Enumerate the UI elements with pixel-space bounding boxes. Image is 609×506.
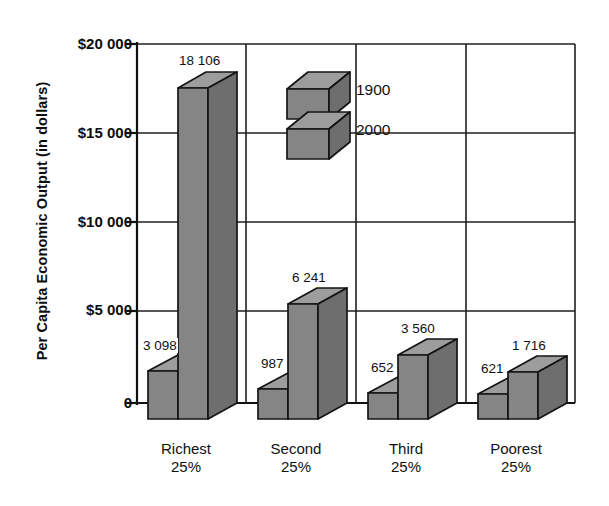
value-label-poorest-2000: 1 716 — [511, 338, 547, 353]
value-label-second-1900: 987 — [260, 356, 285, 371]
value-label-third-2000: 3 560 — [400, 321, 436, 336]
value-label-richest-1900: 3 098 — [142, 338, 178, 353]
legend-label-1900: 1900 — [356, 81, 390, 99]
value-label-poorest-1900: 621 — [480, 361, 505, 376]
x-tick-poorest-name: Poorest — [461, 440, 571, 458]
plot-area — [0, 0, 609, 506]
x-tick-label-third: Third 25% — [351, 440, 461, 475]
x-tick-second-pct: 25% — [241, 458, 351, 476]
x-tick-poorest-pct: 25% — [461, 458, 571, 476]
x-tick-label-richest: Richest 25% — [131, 440, 241, 475]
x-tick-richest-pct: 25% — [131, 458, 241, 476]
x-tick-second-name: Second — [241, 440, 351, 458]
legend-label-2000: 2000 — [356, 121, 390, 139]
bar-second-2000 — [288, 288, 347, 419]
bar-richest-2000 — [178, 72, 237, 419]
value-label-third-1900: 652 — [370, 360, 395, 375]
x-tick-third-name: Third — [351, 440, 461, 458]
value-label-richest-2000: 18 106 — [178, 53, 221, 68]
x-tick-third-pct: 25% — [351, 458, 461, 476]
bar-poorest-2000 — [508, 356, 567, 419]
x-tick-label-second: Second 25% — [241, 440, 351, 475]
bar-third-2000 — [398, 339, 457, 419]
x-tick-richest-name: Richest — [131, 440, 241, 458]
chart-figure: Per Capita Economic Output (in dollars) … — [0, 0, 609, 506]
x-tick-label-poorest: Poorest 25% — [461, 440, 571, 475]
value-label-second-2000: 6 241 — [291, 270, 327, 285]
y-axis — [126, 42, 137, 405]
